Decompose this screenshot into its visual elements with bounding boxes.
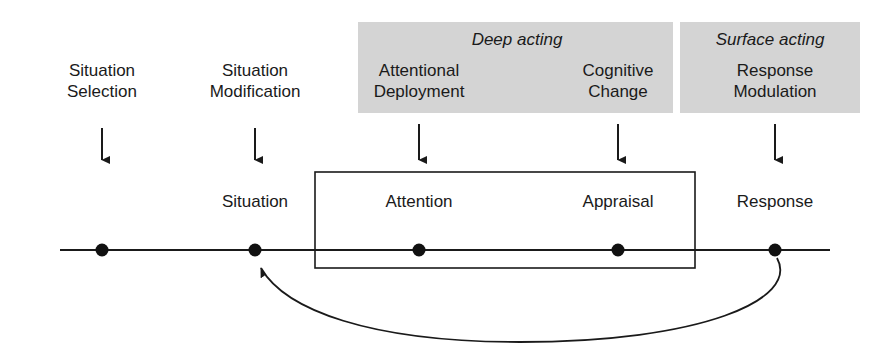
feedback-arc-response-to-situation [261, 258, 780, 342]
timeline-node-appraisal [612, 244, 625, 257]
timeline-node-attention [413, 244, 426, 257]
timeline-node-antecedent [96, 244, 109, 257]
timeline-node-response [769, 244, 782, 257]
emotion-regulation-process-diagram: Deep acting Surface acting Situation Sel… [0, 0, 893, 352]
cognitive-processing-box [315, 172, 695, 268]
diagram-vector-layer [0, 0, 893, 352]
timeline-node-situation [249, 244, 262, 257]
